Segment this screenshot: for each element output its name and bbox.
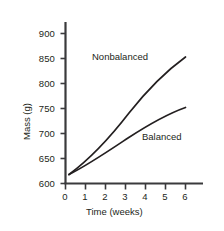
x-axis-title: Time (weeks) bbox=[86, 206, 143, 217]
y-tick-label-900: 900 bbox=[29, 28, 55, 39]
y-axis-title: Mass (g) bbox=[21, 103, 32, 140]
series-label-nonbalanced: Nonbalanced bbox=[92, 51, 148, 62]
y-tick-label-700: 700 bbox=[29, 128, 55, 139]
y-tick-label-800: 800 bbox=[29, 78, 55, 89]
mass-vs-time-chart: 900 850 800 750 700 650 600 0 1 2 3 4 5 … bbox=[0, 0, 224, 231]
y-tick-label-600: 600 bbox=[29, 178, 55, 189]
x-tick-label-2: 2 bbox=[99, 191, 111, 202]
x-tick-label-4: 4 bbox=[139, 191, 151, 202]
y-tick-label-850: 850 bbox=[29, 53, 55, 64]
y-tick-label-650: 650 bbox=[29, 153, 55, 164]
series-label-balanced: Balanced bbox=[142, 131, 182, 142]
x-tick-label-3: 3 bbox=[119, 191, 131, 202]
x-tick-label-1: 1 bbox=[79, 191, 91, 202]
x-tick-label-6: 6 bbox=[179, 191, 191, 202]
x-tick-label-5: 5 bbox=[159, 191, 171, 202]
x-tick-label-0: 0 bbox=[59, 191, 71, 202]
y-tick-label-750: 750 bbox=[29, 103, 55, 114]
